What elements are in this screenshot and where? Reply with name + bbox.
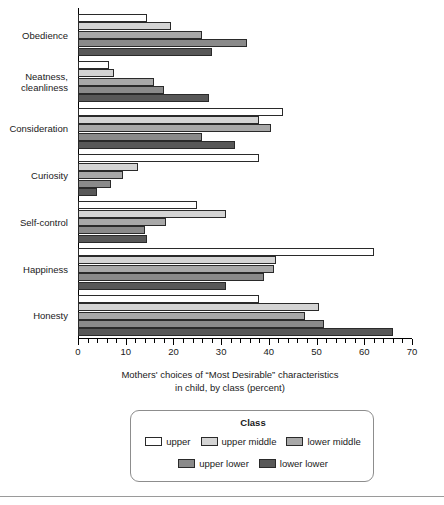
x-tick-minor <box>307 339 308 343</box>
bar <box>78 265 274 273</box>
bar <box>78 303 319 311</box>
x-tick-minor <box>345 339 346 343</box>
bar <box>78 108 283 116</box>
x-tick-label: 0 <box>75 346 80 357</box>
x-axis: 010203040506070 <box>78 338 412 366</box>
chart-figure: ObedienceNeatness, cleanlinessConsiderat… <box>0 0 444 505</box>
x-tick-minor <box>393 339 394 343</box>
legend-row-1: upperupper middlelower middle <box>131 436 375 447</box>
x-tick-minor <box>154 339 155 343</box>
legend-item[interactable]: upper lower <box>178 458 249 469</box>
x-tick-minor <box>278 339 279 343</box>
x-tick-minor <box>107 339 108 343</box>
legend-swatch <box>145 437 162 446</box>
bar <box>78 248 374 256</box>
bar <box>78 94 209 102</box>
bar <box>78 273 264 281</box>
legend-label: lower middle <box>307 436 360 447</box>
bar <box>78 154 259 162</box>
bar <box>78 124 271 132</box>
x-tick-label: 40 <box>264 346 275 357</box>
bar <box>78 39 247 47</box>
category-label: Self-control <box>0 217 68 228</box>
legend-swatch <box>286 437 303 446</box>
x-tick-minor <box>97 339 98 343</box>
x-tick-major <box>364 339 365 345</box>
x-tick-minor <box>374 339 375 343</box>
x-tick-label: 30 <box>216 346 227 357</box>
legend: Class upperupper middlelower middle uppe… <box>130 410 374 482</box>
x-axis-title-line1: Mothers' choices of “Most Desirable” cha… <box>40 368 420 381</box>
legend-label: upper lower <box>199 458 249 469</box>
legend-swatch <box>178 459 195 468</box>
bar-group <box>78 248 412 290</box>
bar <box>78 86 164 94</box>
x-tick-minor <box>297 339 298 343</box>
bar <box>78 141 235 149</box>
category-label: Happiness <box>0 264 68 275</box>
x-tick-label: 60 <box>359 346 370 357</box>
x-tick-minor <box>402 339 403 343</box>
x-axis-line <box>78 338 412 339</box>
x-tick-label: 20 <box>168 346 179 357</box>
x-tick-minor <box>145 339 146 343</box>
bar <box>78 256 276 264</box>
bar <box>78 180 111 188</box>
legend-item[interactable]: upper middle <box>201 436 277 447</box>
x-tick-major <box>221 339 222 345</box>
x-axis-title-line2: in child, by class (percent) <box>40 381 420 394</box>
bar-group <box>78 14 412 56</box>
bar-group <box>78 154 412 196</box>
legend-title: Class <box>131 417 375 428</box>
bar <box>78 61 109 69</box>
x-tick-minor <box>164 339 165 343</box>
x-tick-minor <box>326 339 327 343</box>
bar <box>78 31 202 39</box>
bar <box>78 14 147 22</box>
legend-item[interactable]: lower middle <box>286 436 360 447</box>
bottom-divider <box>0 496 444 497</box>
x-tick-minor <box>288 339 289 343</box>
bar <box>78 201 197 209</box>
legend-item[interactable]: lower lower <box>259 458 328 469</box>
category-label: Obedience <box>0 30 68 41</box>
x-tick-minor <box>88 339 89 343</box>
legend-row-2: upper lowerlower lower <box>131 458 375 469</box>
bar <box>78 22 171 30</box>
x-tick-minor <box>383 339 384 343</box>
x-tick-minor <box>336 339 337 343</box>
legend-label: upper middle <box>222 436 277 447</box>
x-tick-minor <box>193 339 194 343</box>
category-label: Neatness, cleanliness <box>0 71 68 93</box>
x-tick-minor <box>116 339 117 343</box>
x-tick-minor <box>212 339 213 343</box>
legend-label: upper <box>166 436 190 447</box>
x-tick-minor <box>183 339 184 343</box>
bar <box>78 188 97 196</box>
bar-group <box>78 295 412 337</box>
x-tick-minor <box>259 339 260 343</box>
legend-swatch <box>259 459 276 468</box>
x-axis-title: Mothers' choices of “Most Desirable” cha… <box>40 368 420 394</box>
x-tick-major <box>126 339 127 345</box>
bar <box>78 282 226 290</box>
category-axis-labels: ObedienceNeatness, cleanlinessConsiderat… <box>0 8 72 338</box>
x-tick-label: 50 <box>311 346 322 357</box>
x-tick-major <box>317 339 318 345</box>
bar <box>78 235 147 243</box>
bar-group <box>78 108 412 150</box>
bar <box>78 116 259 124</box>
x-tick-minor <box>250 339 251 343</box>
x-tick-major <box>412 339 413 345</box>
x-tick-major <box>78 339 79 345</box>
x-tick-minor <box>202 339 203 343</box>
bar <box>78 226 145 234</box>
bar <box>78 320 324 328</box>
bar <box>78 295 259 303</box>
bar <box>78 48 212 56</box>
legend-swatch <box>201 437 218 446</box>
legend-label: lower lower <box>280 458 328 469</box>
legend-item[interactable]: upper <box>145 436 190 447</box>
bars-container <box>78 8 412 338</box>
category-label: Consideration <box>0 123 68 134</box>
